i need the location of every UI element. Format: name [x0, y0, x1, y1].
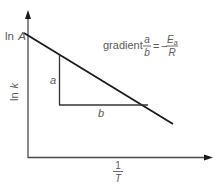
triangle-a-label: a	[50, 74, 56, 86]
svg-text:=: =	[153, 40, 159, 52]
svg-text:T: T	[115, 173, 122, 184]
y-axis-arrow-icon	[25, 10, 31, 19]
svg-text:gradient: gradient	[103, 39, 143, 51]
gradient-equation: gradient a b = − Ea R	[103, 34, 178, 58]
svg-text:1: 1	[115, 160, 121, 171]
svg-text:b: b	[144, 47, 150, 58]
y-axis-label: ln k	[8, 82, 20, 101]
x-axis-label: 1 T	[113, 160, 123, 184]
svg-text:ln A: ln A	[5, 30, 26, 42]
svg-text:ln k: ln k	[8, 82, 20, 101]
ln-a-label: ln A	[5, 30, 26, 42]
svg-text:a: a	[144, 34, 150, 45]
svg-text:Ea: Ea	[167, 34, 178, 46]
x-axis-arrow-icon	[204, 155, 213, 161]
arrhenius-plot: ln A ln k a b gradient a b = − Ea R 1 T	[0, 0, 217, 191]
svg-text:R: R	[168, 47, 175, 58]
triangle-b-label: b	[98, 107, 104, 119]
